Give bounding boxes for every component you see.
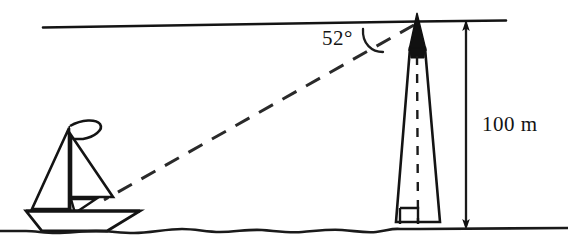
boat-hull: [26, 211, 140, 231]
horizontal-reference-line-group: [43, 21, 506, 28]
boat-pennant: [70, 120, 101, 139]
horizontal-reference-line-right-extension: [417, 21, 506, 22]
boat-mainsail: [32, 128, 69, 209]
horizontal-reference-line: [43, 22, 417, 28]
sailboat: [26, 120, 140, 231]
trigonometry-diagram: 52° 100 m: [0, 0, 568, 252]
line-of-sight-group: [104, 25, 414, 200]
tower-spire-cap: [409, 13, 426, 50]
boat-jib-sail: [71, 135, 113, 197]
height-label: 100 m: [482, 112, 538, 136]
lighthouse-tower: [396, 13, 440, 224]
diagram-canvas: 52° 100 m: [0, 0, 568, 252]
angle-arc: [363, 29, 383, 52]
angle-label: 52°: [322, 26, 353, 50]
line-of-sight-dashed: [104, 25, 414, 200]
angle-arc-group: [363, 29, 383, 52]
height-dimension-arrow: [462, 20, 470, 230]
